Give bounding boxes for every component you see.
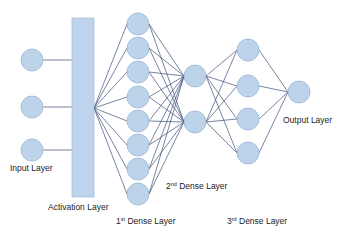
dense2-to-dense3-edge xyxy=(206,122,237,153)
dense-layer-2-text: Dense Layer xyxy=(177,181,228,191)
dense-layer-3-label: 3rd Dense Layer xyxy=(227,217,287,226)
dense1-node xyxy=(127,37,149,59)
dense1-to-dense2-edge xyxy=(149,76,184,169)
dense1-node xyxy=(127,158,149,180)
dense1-to-dense2-edge xyxy=(149,48,184,76)
dense2-to-dense3-edge xyxy=(206,76,237,86)
dense3-node xyxy=(237,75,259,97)
dense1-to-dense2-edge xyxy=(149,24,184,76)
input-layer-label: Input Layer xyxy=(10,164,53,173)
dense2-node xyxy=(184,65,206,87)
dense-layer-1-label: 1st Dense Layer xyxy=(116,217,176,226)
input-node xyxy=(21,96,43,118)
dense1-node xyxy=(127,86,149,108)
dense3-node xyxy=(237,142,259,164)
dense1-node xyxy=(127,134,149,156)
dense2-to-dense3-edge xyxy=(206,76,237,153)
input-node xyxy=(21,139,43,161)
dense-layer-1-text: Dense Layer xyxy=(125,216,176,226)
activation-bar-group xyxy=(72,18,94,197)
input-node xyxy=(21,49,43,71)
dense1-to-dense2-edge xyxy=(149,24,184,122)
dense3-to-output-edge xyxy=(259,86,288,92)
dense2-to-dense3-edge xyxy=(206,76,237,119)
dense1-node xyxy=(127,61,149,83)
dense1-node xyxy=(127,13,149,35)
activation-to-dense1-edge xyxy=(94,108,127,194)
dense-layer-2-label: 2nd Dense Layer xyxy=(166,182,227,191)
activation-to-dense1-edge xyxy=(94,24,127,108)
output-layer-label: Output Layer xyxy=(283,116,332,125)
dense3-node xyxy=(237,108,259,130)
dense2-to-dense3-edge xyxy=(206,119,237,122)
dense2-node xyxy=(184,111,206,133)
dense1-node xyxy=(127,183,149,205)
activation-to-dense1-edge xyxy=(94,108,127,169)
activation-to-dense1-edge xyxy=(94,108,127,121)
activation-to-dense1-edge xyxy=(94,108,127,145)
activation-layer-label: Activation Layer xyxy=(48,203,108,212)
dense1-to-dense2-edge xyxy=(149,122,184,169)
dense-layer-3-text: Dense Layer xyxy=(237,216,288,226)
dense1-to-dense2-edge xyxy=(149,97,184,122)
dense1-node xyxy=(127,110,149,132)
dense2-to-dense3-edge xyxy=(206,86,237,122)
dense3-node xyxy=(237,39,259,61)
activation-layer-bar xyxy=(72,18,94,197)
dense3-to-output-edge xyxy=(259,50,288,92)
dense2-to-dense3-edge xyxy=(206,50,237,76)
output-node xyxy=(288,81,310,103)
dense2-to-dense3-edge xyxy=(206,50,237,122)
